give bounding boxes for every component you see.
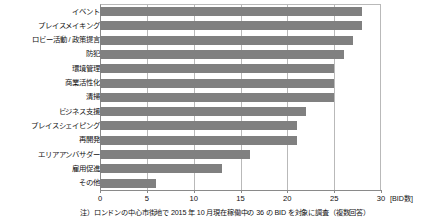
tick-label-15: 15 <box>236 194 244 203</box>
category-label: 環境管理 <box>2 64 100 73</box>
tick-mark-30 <box>381 190 382 193</box>
category-label: プレイスシェイピング <box>2 121 100 130</box>
tick-label-10: 10 <box>189 194 197 203</box>
bar <box>100 107 306 116</box>
bar <box>100 79 334 88</box>
bar <box>100 136 297 145</box>
bar <box>100 50 344 59</box>
bar <box>100 7 362 16</box>
tick-label-5: 5 <box>145 194 149 203</box>
bar <box>100 121 297 130</box>
category-label: 清掃 <box>2 92 100 101</box>
category-label: 防犯 <box>2 49 100 58</box>
category-label: ロビー活動 / 政策提言 <box>2 35 100 44</box>
x-axis-unit-label: [BID数] <box>390 194 413 203</box>
category-label: 商業活性化 <box>2 78 100 87</box>
bar <box>100 150 250 159</box>
category-label: エリアアンバサダー <box>2 150 100 159</box>
category-label: ビジネス支援 <box>2 107 100 116</box>
tick-mark-5 <box>147 190 148 193</box>
tick-label-25: 25 <box>330 194 338 203</box>
category-label: 再開発 <box>2 135 100 144</box>
bar <box>100 36 353 45</box>
category-label: 雇用促進 <box>2 164 100 173</box>
tick-label-30: 30 <box>377 194 385 203</box>
category-label: イベント <box>2 7 100 16</box>
bar <box>100 21 362 30</box>
tick-label-20: 20 <box>283 194 291 203</box>
tick-mark-15 <box>241 190 242 193</box>
tick-mark-20 <box>287 190 288 193</box>
tick-mark-0 <box>100 190 101 193</box>
chart-footnote: 注）ロンドンの中心市街地で 2015 年 10 月現在稼働中の 36 の BID… <box>80 208 370 218</box>
tick-mark-25 <box>334 190 335 193</box>
tick-label-0: 0 <box>98 194 102 203</box>
bar <box>100 64 334 73</box>
category-label: その他 <box>2 178 100 187</box>
chart-figure: イベントプレイスメイキングロビー活動 / 政策提言防犯環境管理商業活性化清掃ビジ… <box>0 0 427 221</box>
bar <box>100 179 156 188</box>
bar-chart-plot: イベントプレイスメイキングロビー活動 / 政策提言防犯環境管理商業活性化清掃ビジ… <box>0 0 427 195</box>
bar <box>100 93 334 102</box>
gridline-25 <box>334 4 335 190</box>
category-label: プレイスメイキング <box>2 21 100 30</box>
tick-mark-10 <box>194 190 195 193</box>
bar <box>100 164 222 173</box>
